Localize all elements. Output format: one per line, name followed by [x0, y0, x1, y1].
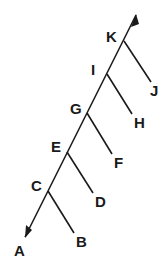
label-k: K [106, 28, 117, 45]
branch-b [48, 191, 74, 233]
label-g: G [70, 100, 82, 117]
label-a: A [14, 242, 25, 259]
label-b: B [76, 233, 87, 250]
branch-d [67, 152, 93, 193]
branch-f [87, 113, 112, 154]
arrow-down-icon [25, 225, 32, 238]
branch-h [107, 74, 132, 114]
branch-j [124, 41, 151, 82]
label-c: C [31, 177, 42, 194]
main-axis [25, 15, 136, 237]
label-h: H [134, 114, 145, 131]
cladogram: K J I H G F E D C B A [0, 0, 168, 259]
label-f: F [114, 154, 123, 171]
label-d: D [95, 193, 106, 210]
label-i: I [91, 61, 95, 78]
label-e: E [51, 138, 61, 155]
label-j: J [150, 82, 158, 99]
